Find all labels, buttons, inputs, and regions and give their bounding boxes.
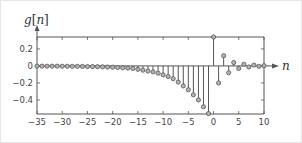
stem-marker: [232, 60, 236, 64]
stem-marker: [166, 74, 170, 78]
stem-marker: [171, 77, 175, 81]
stem-marker: [227, 71, 231, 75]
stem-marker: [196, 98, 200, 102]
stem-marker: [242, 62, 246, 66]
stem-marker: [191, 93, 195, 97]
y-tick-label: −0.4: [12, 95, 33, 105]
stem-marker: [237, 66, 241, 70]
stem-marker: [65, 64, 69, 68]
stem-marker: [151, 70, 155, 74]
stem-marker: [176, 80, 180, 84]
stem-marker: [201, 105, 205, 109]
stem-marker: [111, 65, 115, 69]
y-tick-label: 0.2: [19, 44, 33, 54]
x-tick-label: 5: [236, 117, 241, 127]
x-axis-arrow-icon: [272, 63, 279, 68]
x-tick-label: 0: [211, 117, 216, 127]
stem-marker: [161, 73, 165, 77]
x-tick-label: −15: [129, 117, 147, 127]
stem-marker: [217, 81, 221, 85]
stem-marker: [90, 65, 94, 69]
stem-marker: [262, 64, 266, 68]
x-tick-label: −20: [104, 117, 122, 127]
stem-marker: [116, 65, 120, 69]
stem-marker: [50, 64, 54, 68]
stem-marker: [95, 65, 99, 69]
stem-marker: [70, 64, 74, 68]
stem-marker: [80, 64, 84, 68]
axes: −35−30−25−20−15−10−505100.20−0.2−0.4: [12, 25, 279, 127]
x-tick-label: −35: [28, 117, 46, 127]
stem-marker: [136, 67, 140, 71]
stem-marker: [257, 64, 261, 68]
y-tick-label: −0.2: [12, 78, 33, 88]
stem-marker: [106, 65, 110, 69]
stem-marker: [186, 88, 190, 92]
x-tick-label: −30: [53, 117, 71, 127]
stem-marker: [131, 66, 135, 70]
stem-marker: [206, 111, 210, 115]
stem-marker: [60, 64, 64, 68]
stem-marker: [45, 64, 49, 68]
x-tick-label: −5: [182, 117, 195, 127]
x-tick-label: 10: [259, 117, 270, 127]
stem-marker: [252, 63, 256, 67]
stem-marker: [247, 65, 251, 69]
stem-marker: [126, 66, 130, 70]
stem-marker: [75, 64, 79, 68]
stem-marker: [121, 66, 125, 70]
stem-marker: [181, 84, 185, 88]
stem-marker: [85, 64, 89, 68]
y-tick-label: 0: [28, 61, 33, 71]
x-tick-label: −10: [154, 117, 172, 127]
x-axis-label: n: [282, 59, 290, 73]
stem-marker: [156, 71, 160, 75]
stem-marker: [146, 69, 150, 73]
x-tick-label: −25: [78, 117, 96, 127]
stem-marker: [35, 64, 39, 68]
stem-marker: [100, 65, 104, 69]
stem-marker: [222, 54, 226, 58]
stems: [35, 35, 266, 116]
stem-marker: [141, 68, 145, 72]
stem-marker: [55, 64, 59, 68]
stem-plot: −35−30−25−20−15−10−505100.20−0.2−0.4 g[n…: [0, 0, 302, 143]
stem-marker: [40, 64, 44, 68]
y-axis-label: g[n]: [24, 13, 49, 27]
stem-marker: [211, 35, 215, 39]
